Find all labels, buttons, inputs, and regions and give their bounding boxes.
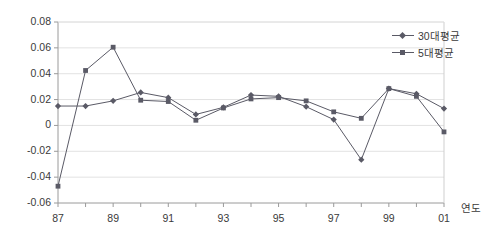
chart-legend: 30대평균5대평균 — [392, 27, 460, 61]
y-axis-tick-label: 0.06 — [31, 41, 51, 53]
legend-square-marker-icon — [392, 48, 414, 58]
data-point — [110, 98, 116, 104]
x-axis-tick-label: 99 — [369, 212, 409, 224]
data-point — [331, 116, 337, 122]
data-point — [138, 98, 143, 103]
series-line — [58, 47, 444, 186]
data-point — [331, 109, 336, 114]
data-point — [441, 106, 447, 112]
data-point — [276, 95, 281, 100]
data-point — [358, 157, 364, 163]
y-axis-tick-label: -0.02 — [27, 144, 51, 156]
data-point — [111, 45, 116, 50]
data-point — [304, 98, 309, 103]
data-point — [359, 116, 364, 121]
data-point — [55, 103, 61, 109]
legend-item-label: 5대평균 — [418, 45, 454, 60]
x-axis-title: 연도 — [461, 200, 481, 215]
data-point — [83, 68, 88, 73]
data-point — [82, 103, 88, 109]
x-axis-tick-label: 97 — [314, 212, 354, 224]
y-axis-tick-label: -0.06 — [27, 196, 51, 208]
data-point — [442, 129, 447, 134]
y-axis-tick-label: 0.04 — [31, 67, 51, 79]
data-point — [386, 86, 391, 91]
x-axis-tick-label: 93 — [203, 212, 243, 224]
x-axis-tick-label: 01 — [424, 212, 464, 224]
y-axis-tick-label: 0 — [45, 118, 51, 130]
data-point — [193, 118, 198, 123]
data-point — [138, 89, 144, 95]
legend-diamond-marker-icon — [392, 31, 414, 41]
data-point — [193, 111, 199, 117]
series-2 — [56, 45, 447, 189]
data-point — [221, 106, 226, 111]
legend-item[interactable]: 5대평균 — [392, 44, 460, 61]
line-chart: 0.080.060.040.020-0.02-0.04-0.0687899193… — [0, 0, 502, 245]
data-point — [166, 99, 171, 104]
y-axis-tick-label: -0.04 — [27, 170, 51, 182]
x-axis-tick-label: 87 — [38, 212, 78, 224]
data-point — [56, 184, 61, 189]
data-point — [303, 104, 309, 110]
x-axis-tick-label: 91 — [148, 212, 188, 224]
y-axis-tick-label: 0.02 — [31, 93, 51, 105]
legend-item-label: 30대평균 — [418, 28, 460, 43]
legend-item[interactable]: 30대평균 — [392, 27, 460, 44]
x-axis-tick-label: 89 — [93, 212, 133, 224]
y-axis-tick-label: 0.08 — [31, 15, 51, 27]
data-point — [414, 94, 419, 99]
data-point — [249, 97, 254, 102]
x-axis-tick-label: 95 — [259, 212, 299, 224]
